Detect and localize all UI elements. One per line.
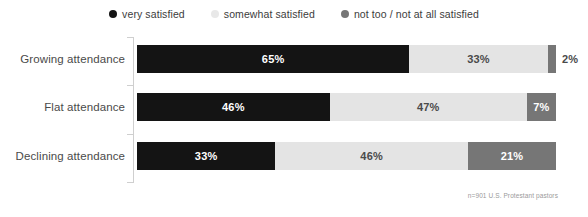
bar-row: Declining attendance 33% 46% 21% (0, 132, 588, 180)
segment-value-label: 46% (360, 150, 383, 162)
legend-item-not-too-satisfied: not too / not at all satisfied (341, 9, 479, 20)
legend-item-label: not too / not at all satisfied (354, 9, 479, 20)
legend-dot-icon (211, 10, 219, 18)
segment-value-label: 46% (222, 101, 245, 113)
bar-row: Flat attendance 46% 47% 7% (0, 83, 588, 131)
stacked-bar: 33% 46% 21% (137, 142, 556, 170)
segment-value-label: 21% (501, 150, 524, 162)
bar-segment-not-too-satisfied[interactable]: 21% (468, 142, 556, 170)
stacked-bar: 65% 33% (137, 45, 556, 73)
bar-segment-somewhat-satisfied[interactable]: 33% (409, 45, 547, 73)
legend-dot-icon (109, 10, 117, 18)
chart-footnote: n=901 U.S. Protestant pastors (468, 192, 558, 199)
bar-segment-somewhat-satisfied[interactable]: 46% (275, 142, 468, 170)
category-label: Declining attendance (0, 132, 125, 180)
segment-value-label: 33% (467, 53, 490, 65)
chart-legend: very satisfied somewhat satisfied not to… (0, 9, 588, 20)
segment-value-label: 65% (262, 53, 285, 65)
category-label: Flat attendance (0, 83, 125, 131)
bar-segment-very-satisfied[interactable]: 46% (137, 93, 330, 121)
bar-row: Growing attendance 65% 33% 2% (0, 35, 588, 83)
category-label: Growing attendance (0, 35, 125, 83)
plot-area: Growing attendance 65% 33% 2% Flat atten… (0, 33, 588, 188)
bar-segment-somewhat-satisfied[interactable]: 47% (330, 93, 527, 121)
legend-item-label: somewhat satisfied (224, 9, 315, 20)
bar-segment-not-too-satisfied[interactable] (548, 45, 556, 73)
legend-item-very-satisfied: very satisfied (109, 9, 185, 20)
segment-value-label: 7% (533, 101, 549, 113)
bar-segment-very-satisfied[interactable]: 65% (137, 45, 409, 73)
legend-dot-icon (341, 10, 349, 18)
bar-segment-very-satisfied[interactable]: 33% (137, 142, 275, 170)
bar-segment-not-too-satisfied[interactable]: 7% (527, 93, 556, 121)
axis-tick (127, 182, 133, 183)
stacked-bar-chart: very satisfied somewhat satisfied not to… (0, 0, 588, 217)
segment-value-label-outside: 2% (562, 45, 578, 73)
legend-item-label: very satisfied (122, 9, 185, 20)
legend-item-somewhat-satisfied: somewhat satisfied (211, 9, 315, 20)
segment-value-label: 33% (195, 150, 218, 162)
segment-value-label: 47% (417, 101, 440, 113)
stacked-bar: 46% 47% 7% (137, 93, 556, 121)
